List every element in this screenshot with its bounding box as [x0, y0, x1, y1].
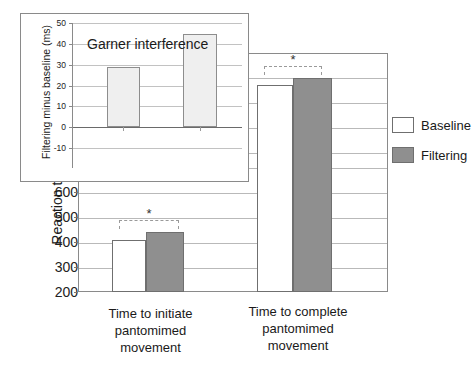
inset-chart-garner-interference: Filtering minus baseline (ms) 50 40 30 2… — [20, 13, 249, 182]
tick-mark — [74, 217, 78, 218]
legend-item-filtering: Filtering — [392, 147, 472, 163]
chart-figure: * * 600 500 400 300 200 Reaction time (m… — [0, 0, 474, 370]
asterisk-icon: * — [264, 53, 322, 66]
asterisk-icon: * — [119, 207, 179, 220]
legend-label: Filtering — [421, 148, 467, 163]
tick-mark — [69, 148, 72, 149]
bar-filtering-complete — [293, 78, 332, 292]
x-category-label-initiate: Time to initiate pantomimed movement — [88, 305, 213, 356]
bracket-icon — [119, 220, 179, 229]
x-label-line: Time to initiate — [88, 305, 213, 322]
legend-swatch-icon — [392, 147, 414, 163]
tick-mark — [74, 242, 78, 243]
x-category-label-complete: Time to complete pantomimed movement — [232, 303, 364, 354]
bar-baseline-complete — [257, 85, 293, 292]
tick-mark — [74, 267, 78, 268]
inset-bar-initiate — [107, 67, 140, 127]
tick-mark — [69, 106, 72, 107]
inset-y-axis-label: Filtering minus baseline (ms) — [40, 17, 52, 167]
significance-marker-initiate: * — [119, 213, 179, 233]
significance-marker-complete: * — [264, 59, 322, 79]
tick-mark — [74, 292, 78, 293]
x-label-line: pantomimed — [88, 322, 213, 339]
legend-label: Baseline — [421, 118, 471, 133]
tick-mark — [200, 127, 201, 131]
gridline — [73, 148, 242, 149]
tick-mark — [69, 44, 72, 45]
legend-item-baseline: Baseline — [392, 117, 472, 133]
tick-mark — [69, 23, 72, 24]
bar-baseline-initiate — [112, 240, 146, 292]
tick-mark — [123, 127, 124, 131]
zero-line — [73, 127, 242, 128]
legend-swatch-icon — [392, 117, 414, 133]
legend: Baseline Filtering — [392, 117, 472, 177]
tick-mark — [69, 65, 72, 66]
bracket-icon — [264, 66, 322, 75]
gridline — [73, 23, 242, 24]
tick-mark — [74, 192, 78, 193]
gridline — [79, 193, 387, 194]
x-label-line: pantomimed — [232, 320, 364, 337]
inset-chart-title: Garner interference — [87, 36, 208, 52]
x-label-line: Time to complete — [232, 303, 364, 320]
tick-mark — [69, 86, 72, 87]
bar-filtering-initiate — [146, 232, 184, 292]
tick-mark — [69, 127, 72, 128]
x-label-line: movement — [232, 337, 364, 354]
x-label-line: movement — [88, 339, 213, 356]
